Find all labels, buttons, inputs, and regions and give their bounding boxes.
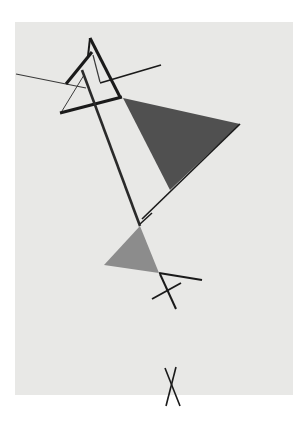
abstract-artwork: [0, 0, 306, 424]
canvas-background: [15, 22, 293, 395]
